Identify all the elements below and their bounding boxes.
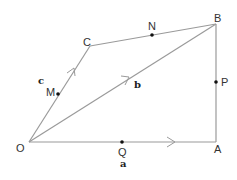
vector-label-a: a (120, 158, 127, 169)
label-o: O (16, 142, 25, 154)
label-p: P (221, 76, 228, 88)
label-m: M (46, 86, 55, 98)
label-n: N (148, 20, 156, 32)
point-m (56, 92, 60, 96)
vector-label-c: c (38, 75, 44, 86)
edge-ob-diagonal (29, 24, 216, 142)
point-q (120, 140, 124, 144)
label-c: C (83, 36, 91, 48)
vector-diagram: O A B C M N P Q a b c (0, 0, 237, 180)
point-p (214, 80, 218, 84)
label-b: B (214, 12, 221, 24)
vector-label-b: b (134, 79, 141, 90)
point-n (150, 33, 154, 37)
label-q: Q (118, 146, 127, 158)
label-a: A (214, 143, 222, 155)
